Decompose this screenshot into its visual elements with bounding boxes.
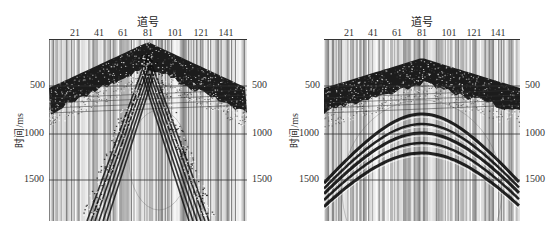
x-tick: 121 (467, 27, 482, 38)
x-tick: 141 (219, 27, 234, 38)
left-panel: 道号 21 41 61 81 101 121 141 500 1000 1500… (0, 0, 276, 238)
y-tick-right: 500 (525, 79, 540, 90)
y-tick-right: 1500 (525, 173, 545, 184)
x-tick: 81 (417, 27, 427, 38)
y-tick-left: 1000 (24, 127, 44, 138)
x-tick: 121 (194, 27, 209, 38)
x-tick: 141 (491, 27, 506, 38)
x-tick: 101 (168, 27, 183, 38)
seismic-gather-plot (49, 39, 247, 221)
x-tick: 41 (94, 27, 104, 38)
seismic-gather-plot (324, 39, 520, 221)
y-axis-title: 时间/ms (286, 108, 301, 148)
y-tick-left: 1500 (24, 173, 44, 184)
x-tick: 81 (143, 27, 153, 38)
y-tick-left: 1500 (299, 173, 319, 184)
y-tick-left: 1000 (299, 127, 319, 138)
seismic-figure: 道号 21 41 61 81 101 121 141 500 1000 1500… (0, 0, 553, 238)
y-tick-right: 1000 (525, 127, 545, 138)
y-axis-title: 时间/ms (11, 108, 26, 148)
x-tick: 21 (70, 27, 80, 38)
x-tick: 21 (344, 27, 354, 38)
x-tick: 61 (392, 27, 402, 38)
y-tick-right: 500 (252, 79, 267, 90)
y-tick-left: 500 (305, 79, 320, 90)
seismic-gather-image (49, 40, 247, 221)
y-tick-left: 500 (30, 79, 45, 90)
right-panel: 道号 21 41 61 81 101 121 141 500 1000 1500… (276, 0, 553, 238)
seismic-gather-image (324, 40, 520, 221)
x-tick: 41 (368, 27, 378, 38)
y-tick-right: 1000 (252, 127, 272, 138)
x-tick: 101 (442, 27, 457, 38)
x-tick: 61 (118, 27, 128, 38)
y-tick-right: 1500 (252, 173, 272, 184)
